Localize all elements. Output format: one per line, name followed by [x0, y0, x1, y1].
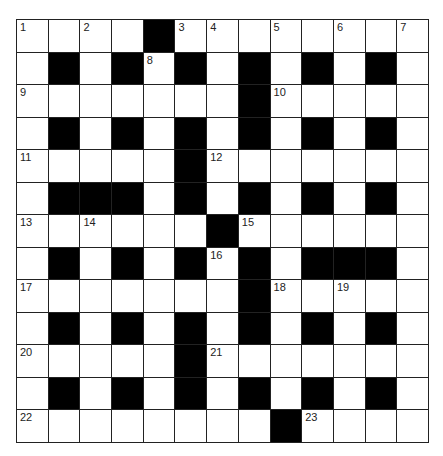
answer-cell[interactable]: 18 [271, 280, 302, 312]
answer-cell[interactable]: 2 [80, 20, 111, 52]
answer-cell[interactable] [334, 118, 365, 150]
answer-cell[interactable] [49, 150, 80, 182]
answer-cell[interactable] [397, 378, 428, 410]
answer-cell[interactable]: 9 [17, 85, 48, 117]
answer-cell[interactable] [397, 345, 428, 377]
answer-cell[interactable] [334, 150, 365, 182]
answer-cell[interactable] [49, 345, 80, 377]
answer-cell[interactable] [334, 215, 365, 247]
answer-cell[interactable]: 14 [80, 215, 111, 247]
answer-cell[interactable] [334, 85, 365, 117]
answer-cell[interactable]: 21 [207, 345, 238, 377]
answer-cell[interactable] [271, 313, 302, 345]
answer-cell[interactable]: 3 [175, 20, 206, 52]
answer-cell[interactable] [144, 248, 175, 280]
answer-cell[interactable] [271, 150, 302, 182]
answer-cell[interactable] [207, 410, 238, 442]
answer-cell[interactable] [144, 345, 175, 377]
answer-cell[interactable] [49, 215, 80, 247]
answer-cell[interactable]: 6 [334, 20, 365, 52]
answer-cell[interactable] [239, 20, 270, 52]
answer-cell[interactable] [334, 313, 365, 345]
answer-cell[interactable] [397, 150, 428, 182]
answer-cell[interactable] [366, 85, 397, 117]
answer-cell[interactable]: 4 [207, 20, 238, 52]
answer-cell[interactable] [175, 280, 206, 312]
answer-cell[interactable] [80, 313, 111, 345]
answer-cell[interactable] [80, 85, 111, 117]
answer-cell[interactable]: 23 [302, 410, 333, 442]
answer-cell[interactable] [144, 378, 175, 410]
answer-cell[interactable]: 12 [207, 150, 238, 182]
answer-cell[interactable]: 5 [271, 20, 302, 52]
answer-cell[interactable] [80, 53, 111, 85]
answer-cell[interactable]: 15 [239, 215, 270, 247]
answer-cell[interactable]: 1 [17, 20, 48, 52]
answer-cell[interactable] [366, 20, 397, 52]
answer-cell[interactable] [80, 410, 111, 442]
answer-cell[interactable]: 10 [271, 85, 302, 117]
answer-cell[interactable] [366, 215, 397, 247]
answer-cell[interactable] [366, 345, 397, 377]
answer-cell[interactable] [144, 183, 175, 215]
answer-cell[interactable] [302, 20, 333, 52]
answer-cell[interactable] [271, 215, 302, 247]
answer-cell[interactable] [271, 53, 302, 85]
answer-cell[interactable] [144, 280, 175, 312]
answer-cell[interactable] [207, 280, 238, 312]
answer-cell[interactable]: 13 [17, 215, 48, 247]
answer-cell[interactable] [112, 150, 143, 182]
answer-cell[interactable] [302, 215, 333, 247]
answer-cell[interactable] [397, 215, 428, 247]
answer-cell[interactable] [271, 378, 302, 410]
answer-cell[interactable] [239, 150, 270, 182]
answer-cell[interactable] [207, 313, 238, 345]
answer-cell[interactable] [112, 20, 143, 52]
answer-cell[interactable] [366, 280, 397, 312]
answer-cell[interactable] [175, 215, 206, 247]
answer-cell[interactable]: 20 [17, 345, 48, 377]
answer-cell[interactable]: 17 [17, 280, 48, 312]
answer-cell[interactable] [239, 410, 270, 442]
answer-cell[interactable] [334, 410, 365, 442]
answer-cell[interactable] [397, 280, 428, 312]
answer-cell[interactable] [144, 150, 175, 182]
answer-cell[interactable] [271, 345, 302, 377]
answer-cell[interactable] [397, 183, 428, 215]
answer-cell[interactable]: 16 [207, 248, 238, 280]
answer-cell[interactable] [17, 378, 48, 410]
answer-cell[interactable] [80, 118, 111, 150]
answer-cell[interactable] [144, 118, 175, 150]
answer-cell[interactable] [112, 280, 143, 312]
answer-cell[interactable] [17, 118, 48, 150]
answer-cell[interactable] [112, 410, 143, 442]
answer-cell[interactable] [271, 118, 302, 150]
answer-cell[interactable]: 7 [397, 20, 428, 52]
answer-cell[interactable] [144, 215, 175, 247]
answer-cell[interactable] [334, 345, 365, 377]
answer-cell[interactable] [397, 248, 428, 280]
answer-cell[interactable] [207, 183, 238, 215]
answer-cell[interactable] [17, 313, 48, 345]
answer-cell[interactable] [271, 183, 302, 215]
answer-cell[interactable] [397, 118, 428, 150]
answer-cell[interactable] [207, 85, 238, 117]
answer-cell[interactable] [397, 313, 428, 345]
answer-cell[interactable] [144, 313, 175, 345]
answer-cell[interactable] [175, 85, 206, 117]
answer-cell[interactable] [302, 280, 333, 312]
answer-cell[interactable] [112, 215, 143, 247]
answer-cell[interactable] [397, 53, 428, 85]
answer-cell[interactable] [334, 378, 365, 410]
answer-cell[interactable] [334, 53, 365, 85]
answer-cell[interactable] [207, 53, 238, 85]
answer-cell[interactable] [80, 378, 111, 410]
answer-cell[interactable] [334, 183, 365, 215]
answer-cell[interactable] [49, 410, 80, 442]
answer-cell[interactable] [80, 248, 111, 280]
answer-cell[interactable] [144, 410, 175, 442]
answer-cell[interactable]: 19 [334, 280, 365, 312]
answer-cell[interactable] [366, 150, 397, 182]
answer-cell[interactable] [112, 345, 143, 377]
answer-cell[interactable] [207, 118, 238, 150]
